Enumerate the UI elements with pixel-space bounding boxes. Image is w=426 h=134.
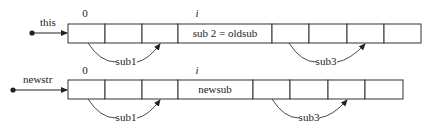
bottom-string-row: newstr 0 i newsub sub1 sub3 xyxy=(10,64,403,123)
sub1-label: sub1 xyxy=(116,111,137,123)
sub1-arc-right xyxy=(137,44,160,62)
sub3-label: sub3 xyxy=(316,55,337,67)
char-cell xyxy=(142,24,178,43)
char-cell xyxy=(253,80,290,99)
char-cell xyxy=(68,24,105,43)
sub1-arc-left xyxy=(88,43,116,62)
index-i-label: i xyxy=(195,7,198,19)
this-pointer-label: this xyxy=(40,16,56,28)
newsub-cell-label: newsub xyxy=(198,83,232,95)
sub3-arc-left xyxy=(289,43,316,62)
char-cell xyxy=(105,80,142,99)
char-cell xyxy=(68,80,105,99)
char-cell xyxy=(347,24,384,43)
char-cell xyxy=(142,80,178,99)
sub1-label: sub1 xyxy=(116,55,137,67)
string-replace-diagram: this 0 i sub 2 = oldsub sub1 sub3 newstr… xyxy=(0,0,426,134)
top-string-row: this 0 i sub 2 = oldsub sub1 sub3 xyxy=(29,7,421,67)
char-cell xyxy=(105,24,142,43)
char-cell xyxy=(365,80,403,99)
char-cell xyxy=(309,24,347,43)
sub1-arc-left xyxy=(88,99,116,118)
index-zero-label: 0 xyxy=(82,64,88,76)
newstr-pointer-label: newstr xyxy=(23,73,53,85)
sub3-arc-left xyxy=(272,99,299,118)
char-cell xyxy=(384,24,421,43)
index-i-label: i xyxy=(195,64,198,76)
char-cell xyxy=(290,80,328,99)
char-cell xyxy=(272,24,309,43)
oldsub-cell-label: sub 2 = oldsub xyxy=(193,27,258,39)
index-zero-label: 0 xyxy=(82,7,88,19)
sub3-arc-right xyxy=(337,44,365,62)
char-cell xyxy=(328,80,365,99)
sub3-label: sub3 xyxy=(299,111,320,123)
sub1-arc-right xyxy=(137,100,160,118)
sub3-arc-right xyxy=(319,100,347,118)
